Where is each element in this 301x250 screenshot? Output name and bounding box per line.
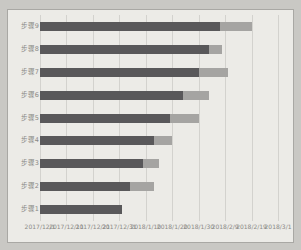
bar-segment-light	[170, 114, 199, 123]
bar-row	[40, 159, 289, 168]
y-axis-label: 步骤6	[0, 91, 39, 100]
bar-segment-dark	[40, 68, 199, 77]
bar-row	[40, 114, 289, 123]
bar-segment-dark	[40, 136, 154, 145]
bar-segment-light	[130, 182, 154, 191]
bar-segment-dark	[40, 159, 143, 168]
bar-row	[40, 91, 289, 100]
y-axis-label: 步骤4	[0, 136, 39, 145]
bar-segment-dark	[40, 182, 130, 191]
y-axis-label: 步骤8	[0, 45, 39, 54]
bar-segment-light	[143, 159, 159, 168]
y-axis-label: 步骤1	[0, 205, 39, 214]
bar-row	[40, 45, 289, 54]
bar-row	[40, 182, 289, 191]
bar-segment-dark	[40, 91, 183, 100]
y-axis-label: 步骤9	[0, 22, 39, 31]
chart-panel: 2017/12/12017/12/112017/12/212017/12/312…	[7, 9, 294, 243]
bar-row	[40, 68, 289, 77]
bar-segment-light	[183, 91, 209, 100]
screenshot-background: { "chart_data": { "type": "bar", "orient…	[0, 0, 301, 250]
bar-row	[40, 22, 289, 31]
bar-row	[40, 205, 289, 214]
bar-segment-dark	[40, 45, 209, 54]
bar-segment-dark	[40, 114, 170, 123]
bar-segment-light	[154, 136, 173, 145]
bar-segment-dark	[40, 205, 122, 214]
y-axis-label: 步骤3	[0, 159, 39, 168]
y-axis-label: 步骤7	[0, 68, 39, 77]
x-axis-tick-label: 2018/1/30	[183, 223, 214, 230]
plot-area	[40, 15, 289, 221]
bar-row	[40, 136, 289, 145]
bar-segment-light	[209, 45, 222, 54]
bar-segment-light	[199, 68, 228, 77]
x-axis-tick-label: 2018/3/1	[265, 223, 292, 230]
y-axis-label: 步骤2	[0, 182, 39, 191]
y-axis-label: 步骤5	[0, 114, 39, 123]
bar-segment-dark	[40, 22, 220, 31]
x-axis-tick-label: 2018/2/19	[236, 223, 267, 230]
bar-segment-light	[220, 22, 252, 31]
x-axis-tick-label: 2018/2/9	[212, 223, 239, 230]
